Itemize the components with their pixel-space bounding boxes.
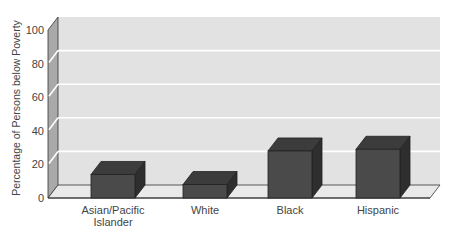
y-axis-label: Percentage of Persons below Poverty (10, 19, 22, 195)
bar-front (91, 174, 135, 198)
x-category-line: Black (277, 204, 304, 216)
x-category-label: White (191, 204, 219, 216)
x-category-line: White (191, 204, 219, 216)
y-tick-label: 0 (38, 192, 44, 204)
y-axis-ticks: 020406080100 (26, 24, 44, 204)
x-category-label: Asian/PacificIslander (82, 204, 145, 228)
bar-chart: 020406080100 Asian/PacificIslanderWhiteB… (0, 0, 453, 235)
bar-front (183, 185, 227, 198)
bar-black (268, 138, 322, 198)
bar-front (356, 149, 400, 198)
bar-front (268, 151, 312, 198)
y-tick-label: 60 (32, 91, 44, 103)
x-category-line: Asian/Pacific (82, 204, 145, 216)
bar-hispanic (356, 136, 410, 198)
y-tick-label: 100 (26, 24, 44, 36)
bar-asian-pacific-islander (91, 161, 145, 198)
y-tick-label: 20 (32, 158, 44, 170)
x-category-line: Hispanic (357, 204, 400, 216)
y-tick-label: 80 (32, 58, 44, 70)
x-category-label: Black (277, 204, 304, 216)
x-category-line: Islander (93, 216, 132, 228)
x-axis-categories: Asian/PacificIslanderWhiteBlackHispanic (82, 204, 400, 228)
bar-white (183, 172, 237, 198)
y-tick-label: 40 (32, 125, 44, 137)
x-category-label: Hispanic (357, 204, 400, 216)
side-wall (48, 17, 58, 198)
